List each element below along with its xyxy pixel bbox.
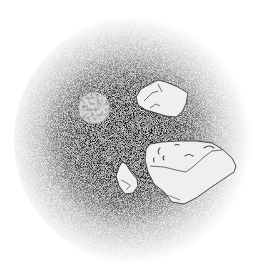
moon-icon — [78, 92, 110, 124]
space-illustration: Stippled ink illustration of asteroids a… — [0, 0, 276, 273]
space-halo — [14, 16, 262, 264]
illustration-canvas — [0, 0, 276, 273]
